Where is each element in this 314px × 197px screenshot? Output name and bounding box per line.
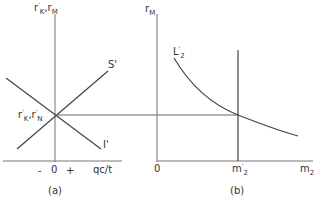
curve-l2-prime [174,58,298,136]
panel-b-y-axis-label: rM [145,4,155,14]
money-supply-tick-label: m'2 [232,164,248,174]
panel-a-origin-label: 0 [51,165,57,175]
equilibrium-rate-label: r'K,r'N [18,110,43,120]
panel-b-x-axis-label: m2 [300,164,314,174]
curve-s-prime-label: S' [108,60,117,70]
x-plus-label: + [66,166,74,176]
panel-a-x-axis-label: qc/t [93,165,112,175]
panel-b-origin-label: 0 [154,164,160,174]
panel-a-caption: (a) [48,186,62,196]
panel-a-y-axis-label: r'K,rM [34,3,58,13]
x-minus-label: - [38,166,42,176]
panel-b-caption: (b) [230,186,244,196]
curve-l2-prime-label: L'2 [173,47,185,57]
curve-i-prime-label: I' [103,140,109,150]
